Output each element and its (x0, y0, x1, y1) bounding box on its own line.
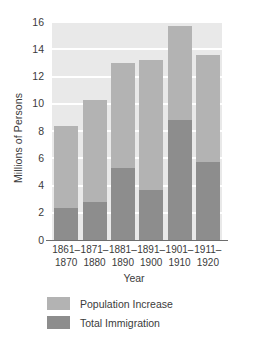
y-axis-tick-label: 6 (22, 153, 44, 164)
x-axis-title: Year (0, 272, 268, 284)
bar-segment-total-immigration (139, 190, 163, 240)
y-axis-tick-label: 12 (22, 71, 44, 82)
bar-segment-population-increase (111, 63, 135, 168)
bar-segment-population-increase (196, 55, 220, 163)
x-axis-tick-line: 1911– (188, 244, 228, 257)
y-axis-tick-label: 0 (22, 235, 44, 246)
bar (196, 55, 220, 240)
bar (139, 60, 163, 240)
bar-segment-total-immigration (54, 208, 78, 240)
gridline (52, 48, 222, 50)
x-axis-line (46, 240, 228, 241)
bar-segment-total-immigration (83, 202, 107, 240)
x-axis-tick-label: 1911–1920 (188, 244, 228, 269)
y-axis-tick-mark (46, 240, 52, 241)
bar-segment-population-increase (139, 60, 163, 189)
legend-label: Population Increase (80, 298, 173, 310)
y-axis-tick-label: 10 (22, 98, 44, 109)
y-axis-tick-label: 14 (22, 44, 44, 55)
bar-segment-population-increase (83, 100, 107, 202)
y-axis-tick-label: 8 (22, 126, 44, 137)
legend-label: Total Immigration (80, 317, 160, 329)
legend-item: Total Immigration (47, 313, 173, 332)
gridline (52, 21, 222, 23)
bar-segment-population-increase (168, 26, 192, 120)
y-axis-tick-label: 16 (22, 17, 44, 28)
y-axis-tick-label: 2 (22, 207, 44, 218)
y-axis-tick-label: 4 (22, 180, 44, 191)
bar (168, 26, 192, 240)
x-axis-tick-line: 1920 (188, 257, 228, 270)
legend-item: Population Increase (47, 294, 173, 313)
bar (111, 63, 135, 240)
bar (54, 126, 78, 240)
legend-swatch (47, 297, 70, 310)
stacked-bar-chart: Millions of Persons 0246810121416 1861–1… (0, 0, 268, 346)
legend: Population IncreaseTotal Immigration (47, 294, 173, 332)
bar (83, 100, 107, 240)
legend-swatch (47, 316, 70, 329)
bar-segment-total-immigration (196, 162, 220, 240)
bar-segment-total-immigration (111, 168, 135, 240)
bar-segment-total-immigration (168, 120, 192, 240)
bar-segment-population-increase (54, 126, 78, 208)
